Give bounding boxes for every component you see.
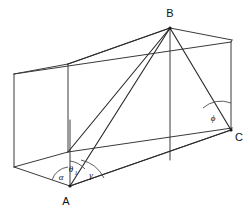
vertex-label-a: A	[62, 195, 70, 207]
angle-label-theta-subscript: 1	[75, 170, 78, 176]
segment-ac	[70, 130, 231, 186]
vertex-dot-b	[168, 26, 171, 29]
angle-label-theta: θ	[69, 164, 74, 174]
geometry-diagram-canvas: A B C α θ 1 γ ϕ	[0, 0, 249, 213]
triangle-abc	[68, 28, 231, 186]
angle-label-gamma: γ	[89, 170, 93, 180]
box-bottom-face	[14, 128, 232, 186]
edge-top-front	[14, 42, 231, 74]
segment-ab	[70, 28, 170, 186]
box-top-face	[14, 28, 232, 74]
vertex-label-c: C	[235, 131, 243, 143]
box-diagram-svg: A B C α θ 1 γ ϕ	[0, 0, 249, 213]
edge-bottom-back	[68, 128, 232, 152]
box-vertical-edges	[14, 28, 231, 186]
vertex-label-b: B	[166, 7, 173, 19]
vertex-dots	[68, 26, 232, 187]
edge-bottom-left-diagonal	[14, 152, 68, 167]
angle-label-alpha: α	[59, 172, 64, 182]
angle-label-phi: ϕ	[211, 113, 216, 123]
vertex-dot-c	[229, 128, 232, 131]
vertex-dot-a	[68, 184, 71, 187]
edge-top-left-diagonal	[14, 64, 68, 74]
